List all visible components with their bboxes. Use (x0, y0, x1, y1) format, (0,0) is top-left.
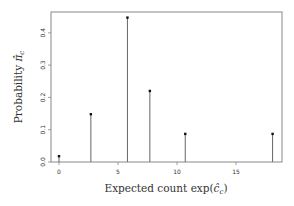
stem-marker (149, 90, 151, 92)
y-axis: 0.00.10.20.30.4 (39, 28, 51, 167)
x-tick-label: 5 (116, 168, 120, 175)
y-tick-label: 0.2 (39, 92, 46, 102)
plot-frame (51, 12, 282, 162)
y-tick-label: 0.0 (39, 157, 46, 167)
x-axis-title: Expected count exp(ĉc) (104, 182, 227, 196)
stem-marker (58, 155, 60, 157)
stem-marker (90, 113, 92, 115)
y-tick-label: 0.4 (39, 28, 46, 38)
stem-chart: 0.00.10.20.30.4 051015 Expected count ex… (0, 0, 294, 206)
stem-marker (271, 133, 273, 135)
x-tick-label: 15 (232, 168, 240, 175)
y-tick-label: 0.1 (39, 125, 46, 135)
y-tick-label: 0.3 (39, 60, 46, 70)
stem-marker (184, 133, 186, 135)
x-axis: 051015 (57, 162, 240, 175)
data-stems (58, 16, 274, 162)
x-tick-label: 0 (57, 168, 61, 175)
stem-marker (126, 16, 128, 18)
y-axis-title: Probability π̂c (12, 51, 26, 124)
x-tick-label: 10 (173, 168, 181, 175)
